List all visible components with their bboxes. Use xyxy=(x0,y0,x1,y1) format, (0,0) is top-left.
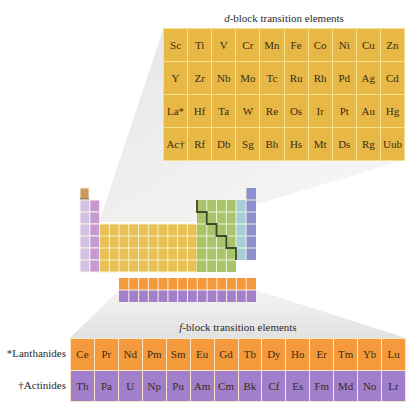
lanthanides-label: *Lanthanides xyxy=(0,347,66,359)
f-block-grid: Ce Pr Nd Pm Sm Eu Gd Tb Dy Ho Er Tm Yb L… xyxy=(70,338,406,402)
lanthanide-cell: Lu xyxy=(382,339,405,370)
actinide-cell: U xyxy=(119,371,142,402)
actinide-cell: Am xyxy=(191,371,214,402)
actinide-cell: Pu xyxy=(167,371,190,402)
lanthanide-cell: Dy xyxy=(262,339,285,370)
lanthanide-cell: Yb xyxy=(358,339,381,370)
lanthanide-cell: Pm xyxy=(143,339,166,370)
actinide-cell: Fm xyxy=(310,371,333,402)
actinide-cell: Cm xyxy=(215,371,238,402)
actinide-cell: Md xyxy=(334,371,357,402)
lanthanide-cell: Ce xyxy=(71,339,94,370)
actinide-cell: Es xyxy=(286,371,309,402)
actinide-cell: Cf xyxy=(262,371,285,402)
lanthanide-cell: Eu xyxy=(191,339,214,370)
actinide-cell: Th xyxy=(71,371,94,402)
actinide-cell: Np xyxy=(143,371,166,402)
actinide-cell: Pa xyxy=(95,371,118,402)
lanthanide-cell: Gd xyxy=(215,339,238,370)
actinide-cell: No xyxy=(358,371,381,402)
lanthanide-cell: Er xyxy=(310,339,333,370)
lanthanide-cell: Nd xyxy=(119,339,142,370)
actinides-label: †Actinides xyxy=(0,379,66,391)
f-block-title: f-block transition elements xyxy=(70,321,406,333)
lanthanide-cell: Tb xyxy=(239,339,262,370)
lanthanide-cell: Ho xyxy=(286,339,309,370)
lanthanide-cell: Pr xyxy=(95,339,118,370)
lanthanide-cell: Sm xyxy=(167,339,190,370)
lanthanide-cell: Tm xyxy=(334,339,357,370)
actinide-cell: Bk xyxy=(239,371,262,402)
actinide-cell: Lr xyxy=(382,371,405,402)
